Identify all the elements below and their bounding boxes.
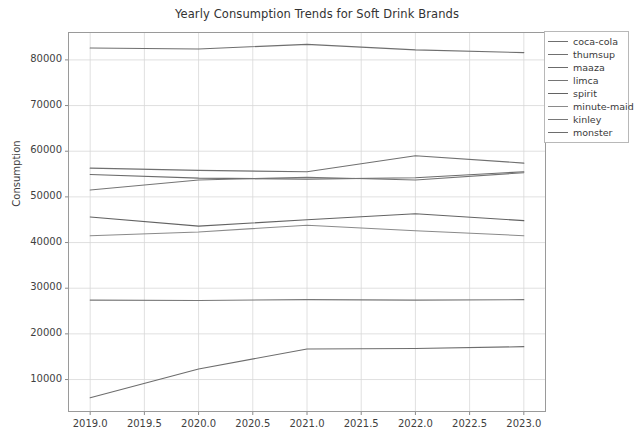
legend-item-label: monster xyxy=(573,127,613,138)
legend-item-kinley[interactable]: kinley xyxy=(548,113,624,126)
legend-swatch-icon xyxy=(548,132,568,133)
legend-item-minute-maid[interactable]: minute-maid xyxy=(548,100,624,113)
legend-item-thumsup[interactable]: thumsup xyxy=(548,48,624,61)
legend-swatch-icon xyxy=(548,93,568,94)
legend-item-label: kinley xyxy=(573,114,601,125)
legend-item-label: maaza xyxy=(573,62,605,73)
legend-item-limca[interactable]: limca xyxy=(548,74,624,87)
legend-item-spirit[interactable]: spirit xyxy=(548,87,624,100)
legend-item-label: spirit xyxy=(573,88,597,99)
legend-swatch-icon xyxy=(548,54,568,55)
legend-item-label: minute-maid xyxy=(573,101,634,112)
chart-legend: coca-colathumsupmaazalimcaspiritminute-m… xyxy=(544,31,629,143)
legend-item-coca-cola[interactable]: coca-cola xyxy=(548,35,624,48)
legend-item-label: limca xyxy=(573,75,599,86)
legend-item-maaza[interactable]: maaza xyxy=(548,61,624,74)
plot-area xyxy=(0,0,634,433)
legend-item-label: coca-cola xyxy=(573,36,618,47)
legend-item-monster[interactable]: monster xyxy=(548,126,624,139)
grid-lines xyxy=(69,33,546,412)
legend-item-label: thumsup xyxy=(573,49,615,60)
chart-figure: Yearly Consumption Trends for Soft Drink… xyxy=(0,0,634,433)
legend-swatch-icon xyxy=(548,106,568,107)
axis-tick-marks xyxy=(65,60,524,415)
legend-swatch-icon xyxy=(548,119,568,120)
legend-swatch-icon xyxy=(548,67,568,68)
legend-swatch-icon xyxy=(548,80,568,81)
legend-swatch-icon xyxy=(548,41,568,42)
